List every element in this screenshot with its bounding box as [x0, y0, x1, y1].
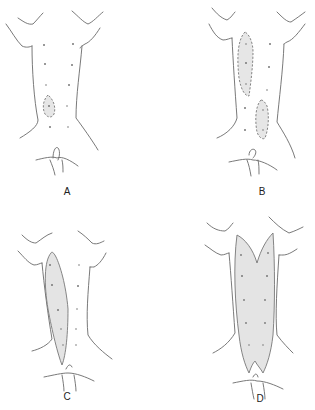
panel-label-c: C [57, 391, 77, 402]
panel-label-b: B [252, 186, 272, 197]
back-illustration-c [0, 205, 157, 410]
panel-b: B [157, 0, 314, 205]
panel-label-d: D [250, 393, 270, 404]
panel-d: D [157, 205, 314, 410]
panel-c: C [0, 205, 157, 410]
panel-label-a: A [57, 186, 77, 197]
back-illustration-b [157, 0, 314, 205]
panel-a: A [0, 0, 157, 205]
back-illustration-d [157, 205, 314, 410]
back-illustration-a [0, 0, 157, 205]
